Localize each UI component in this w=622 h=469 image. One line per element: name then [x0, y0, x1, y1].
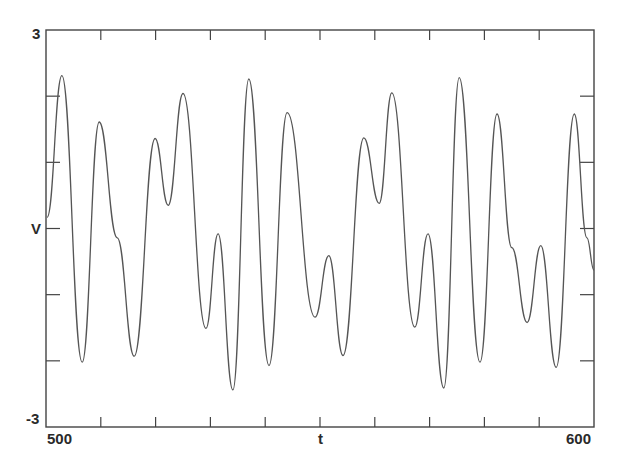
y-max-label: 3 [32, 26, 40, 41]
x-max-label: 600 [566, 431, 591, 446]
y-min-label: -3 [26, 411, 39, 426]
y-axis-label: V [31, 221, 41, 236]
signal-curve [47, 76, 594, 390]
plot-frame [46, 30, 594, 427]
axis-ticks [46, 30, 594, 427]
x-min-label: 500 [47, 431, 72, 446]
x-axis-label: t [318, 431, 323, 446]
plot-area [0, 0, 622, 469]
